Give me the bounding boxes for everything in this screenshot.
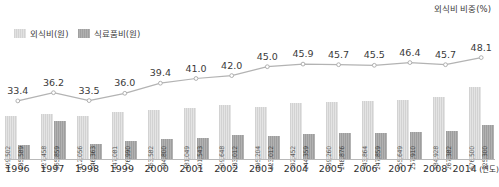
line-point-label: 39.4 — [150, 67, 171, 78]
x-axis-label: 2008 — [418, 163, 453, 185]
x-axis-label: 2001 — [174, 163, 209, 185]
line-point-label: 36.0 — [114, 77, 135, 88]
line-point-label: 45.7 — [328, 49, 349, 60]
x-axis-label: 1997 — [35, 163, 70, 185]
line-point-label: 42.0 — [221, 60, 242, 71]
line-point-label: 45.7 — [435, 49, 456, 60]
line-marker — [337, 63, 341, 67]
line-point-label: 48.1 — [471, 42, 492, 53]
line-point-label: 46.4 — [399, 47, 420, 58]
line-marker — [194, 77, 198, 81]
plot-area: 409,502135,589427,458365,859412,056146,3… — [0, 0, 499, 160]
x-axis-label: 2007 — [383, 163, 418, 185]
line-point-label: 45.5 — [364, 49, 385, 60]
x-axis-label: 2005 — [313, 163, 348, 185]
line-point-label: 36.2 — [43, 77, 64, 88]
x-axis-labels: 1996199719981999200020012002200320042005… — [0, 163, 499, 185]
line-point-label: 33.4 — [7, 85, 28, 96]
line-marker — [16, 99, 20, 103]
x-axis-label: 2002 — [209, 163, 244, 185]
line-point-label: 45.9 — [292, 48, 313, 59]
line-marker — [408, 61, 412, 65]
x-axis-label: 2004 — [279, 163, 314, 185]
line-marker — [479, 56, 483, 60]
x-axis-unit: (연도) — [477, 165, 499, 174]
line-marker — [444, 63, 448, 67]
line-marker — [87, 99, 91, 103]
line-marker — [265, 65, 269, 69]
combo-chart: 외식비(원) 식료품비(원) 외식비 비중(%) 409,502135,5894… — [0, 0, 499, 187]
line-marker — [159, 81, 163, 85]
x-axis-label: 2006 — [348, 163, 383, 185]
x-axis-line — [4, 159, 495, 160]
line-marker — [123, 91, 127, 95]
x-axis-label: 2014 (연도) — [453, 163, 499, 185]
line-marker — [301, 62, 305, 66]
line-point-label: 41.0 — [185, 63, 206, 74]
x-axis-label: 1998 — [70, 163, 105, 185]
line-point-label: 45.0 — [257, 51, 278, 62]
x-axis-label: 1996 — [0, 163, 35, 185]
line-point-label: 33.5 — [79, 85, 100, 96]
line-series-layer — [0, 0, 499, 160]
line-marker — [230, 74, 234, 78]
x-axis-label: 2000 — [139, 163, 174, 185]
line-marker — [372, 63, 376, 67]
x-axis-label: 2003 — [244, 163, 279, 185]
line-marker — [52, 91, 56, 95]
x-axis-label: 1999 — [104, 163, 139, 185]
